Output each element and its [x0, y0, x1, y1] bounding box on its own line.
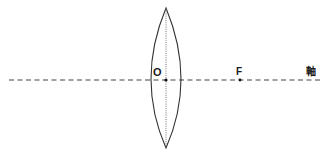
focal-point-label: F	[236, 67, 242, 77]
focal-point	[239, 79, 242, 82]
lens-diagram	[0, 0, 328, 163]
optical-center-label: O	[153, 67, 162, 78]
axis-label: 軸	[306, 67, 316, 77]
optical-center-point	[164, 78, 167, 81]
